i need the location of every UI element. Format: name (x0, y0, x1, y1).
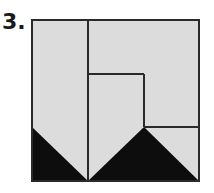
square-puzzle-figure (0, 0, 214, 193)
